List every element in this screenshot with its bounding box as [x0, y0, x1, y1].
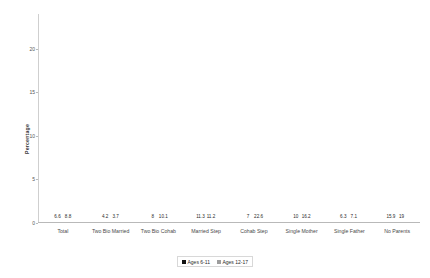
y-tick-mark — [36, 49, 39, 50]
bar-group: 4.23.7 — [87, 14, 135, 222]
bar-group: 6.37.1 — [325, 14, 373, 222]
y-tick-mark — [36, 136, 39, 137]
bar-value-label: 6.6 — [54, 214, 60, 219]
bar-value-label: 8 — [152, 214, 155, 219]
bar-value-label: 11.3 — [196, 214, 205, 219]
bar-value-label: 11.2 — [207, 214, 216, 219]
x-tick-label: Married Step — [182, 228, 230, 234]
bar-group: 810.1 — [134, 14, 182, 222]
y-tick-mark — [36, 92, 39, 93]
x-axis-line — [38, 222, 420, 223]
bar-value-label: 16.2 — [302, 214, 311, 219]
legend-item[interactable]: Ages 12-17 — [217, 259, 248, 265]
y-tick-label: 10 — [17, 133, 35, 139]
y-axis-title: Percentage — [24, 124, 30, 154]
bar-value-label: 6.3 — [340, 214, 346, 219]
y-tick-label: 20 — [17, 46, 35, 52]
bar-value-label: 22.6 — [254, 214, 263, 219]
bar-value-label: 7.1 — [351, 214, 357, 219]
bar-chart: Percentage 05101520 6.68.84.23.7810.111.… — [0, 0, 430, 278]
legend-box: Ages 6-11Ages 12-17 — [177, 256, 253, 267]
y-tick-mark — [36, 179, 39, 180]
y-tick-label: 15 — [17, 89, 35, 95]
x-axis-labels: TotalTwo Bio MarriedTwo Bio CohabMarried… — [39, 228, 421, 234]
bar-value-label: 10.1 — [159, 214, 168, 219]
x-tick-label: Two Bio Cohab — [135, 228, 183, 234]
x-tick-label: No Parents — [373, 228, 421, 234]
bar-group: 6.68.8 — [39, 14, 87, 222]
y-tick-label: 0 — [17, 220, 35, 226]
bar-value-label: 4.2 — [102, 214, 108, 219]
legend: Ages 6-11Ages 12-17 — [0, 256, 430, 267]
x-tick-label: Total — [39, 228, 87, 234]
legend-label: Ages 6-11 — [188, 259, 210, 265]
bar-value-label: 3.7 — [112, 214, 118, 219]
legend-label: Ages 12-17 — [222, 259, 248, 265]
legend-swatch — [182, 260, 186, 264]
bar-value-label: 10 — [293, 214, 298, 219]
bar-value-label: 15.9 — [386, 214, 395, 219]
bar-value-label: 7 — [247, 214, 250, 219]
legend-swatch — [217, 260, 221, 264]
x-tick-label: Two Bio Married — [87, 228, 135, 234]
legend-item[interactable]: Ages 6-11 — [182, 259, 210, 265]
x-tick-label: Single Mother — [278, 228, 326, 234]
plot-area: 05101520 6.68.84.23.7810.111.311.2722.61… — [38, 14, 420, 223]
x-tick-label: Cohab Step — [230, 228, 278, 234]
bar-groups: 6.68.84.23.7810.111.311.2722.61016.26.37… — [39, 14, 420, 222]
bar-group: 1016.2 — [277, 14, 325, 222]
y-tick-mark — [36, 223, 39, 224]
bar-group: 722.6 — [230, 14, 278, 222]
y-tick-label: 5 — [17, 176, 35, 182]
bar-group: 15.919 — [372, 14, 420, 222]
bar-value-label: 8.8 — [65, 214, 71, 219]
bar-value-label: 19 — [399, 214, 404, 219]
bar-group: 11.311.2 — [182, 14, 230, 222]
x-tick-label: Single Father — [326, 228, 374, 234]
